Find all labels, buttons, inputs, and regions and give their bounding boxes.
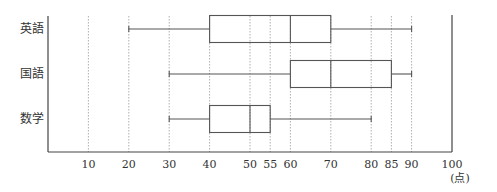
x-tick-80: 80 <box>364 158 378 171</box>
box-1 <box>169 61 411 88</box>
box-2 <box>169 106 371 133</box>
x-tick-50: 50 <box>243 158 257 171</box>
x-tick-labels: 1020304050556070808590100 <box>81 158 462 171</box>
x-tick-90: 90 <box>405 158 419 171</box>
boxes <box>129 16 412 133</box>
boxplot-chart: 英語国語数学 1020304050556070808590100 (点) <box>0 0 497 192</box>
x-tick-30: 30 <box>162 158 176 171</box>
category-label-2: 数学 <box>20 111 44 126</box>
x-tick-40: 40 <box>203 158 217 171</box>
category-label-1: 国語 <box>20 66 44 81</box>
unit-label: (点) <box>450 172 470 185</box>
x-tick-70: 70 <box>324 158 338 171</box>
category-label-0: 英語 <box>20 21 44 36</box>
x-tick-20: 20 <box>122 158 136 171</box>
x-tick-60: 60 <box>283 158 297 171</box>
category-labels: 英語国語数学 <box>20 21 44 126</box>
x-tick-85: 85 <box>384 158 398 171</box>
box-iqr <box>290 61 391 88</box>
x-tick-10: 10 <box>81 158 95 171</box>
x-tick-100: 100 <box>442 158 463 171</box>
x-tick-55: 55 <box>263 158 277 171</box>
box-iqr <box>210 106 271 133</box>
